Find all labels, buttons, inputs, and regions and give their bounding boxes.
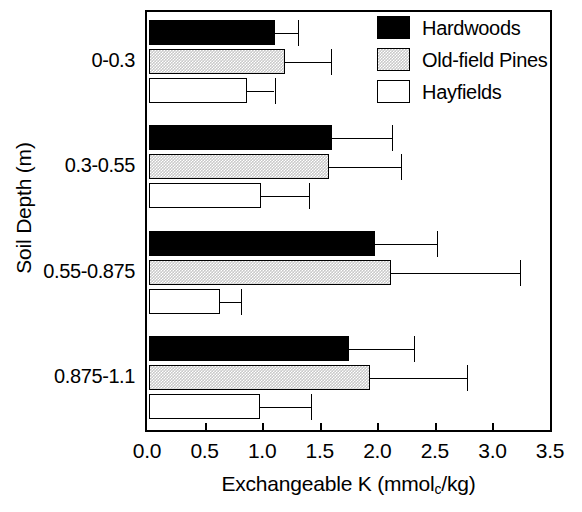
bar-hayfields-0.3-0.55 xyxy=(149,183,261,208)
legend-swatch-hardwoods xyxy=(377,16,410,39)
x-axis-tick xyxy=(377,423,379,432)
legend-label: Hardwoods xyxy=(422,14,520,42)
error-bar-cap xyxy=(401,154,402,180)
error-bar-line xyxy=(391,273,520,274)
bar-hardwoods-0.875-1.1 xyxy=(149,336,349,361)
error-bar-cap xyxy=(331,49,332,75)
error-bar-cap xyxy=(520,260,521,286)
error-bar-line xyxy=(285,62,331,63)
x-axis-tick xyxy=(205,423,207,432)
error-bar-line xyxy=(329,167,402,168)
error-bar-cap xyxy=(467,365,468,391)
y-tick-label-0.875-1.1: 0.875-1.1 xyxy=(0,365,135,387)
y-axis-tick-labels: 0-0.30.3-0.550.55-0.8750.875-1.1 xyxy=(0,0,141,432)
error-bar-cap xyxy=(275,78,276,104)
x-tick-label: 1.0 xyxy=(232,438,292,464)
error-bar-cap xyxy=(392,125,393,151)
legend-label: Old-field Pines xyxy=(422,46,548,74)
x-tick-label: 3.5 xyxy=(520,438,580,464)
legend-item-hayfields: Hayfields xyxy=(377,78,549,107)
bar-hayfields-0.875-1.1 xyxy=(149,394,260,419)
error-bar-line xyxy=(220,302,241,303)
x-tick-label: 2.5 xyxy=(405,438,465,464)
bar-old-field-pines-0.875-1.1 xyxy=(149,365,370,390)
legend-swatch-pines xyxy=(377,48,410,71)
legend-item-pines: Old-field Pines xyxy=(377,46,549,75)
bar-hayfields-0-0.3 xyxy=(149,78,247,103)
error-bar-line xyxy=(275,33,298,34)
x-axis-tick xyxy=(492,423,494,432)
x-tick-label: 0.0 xyxy=(117,438,177,464)
chart-legend: HardwoodsOld-field PinesHayfields xyxy=(377,14,549,110)
x-axis-tick xyxy=(320,423,322,432)
error-bar-line xyxy=(349,349,413,350)
x-tick-label: 0.5 xyxy=(175,438,235,464)
legend-swatch-hayfields xyxy=(377,80,410,103)
x-axis-tick xyxy=(262,423,264,432)
y-tick-label-0.3-0.55: 0.3-0.55 xyxy=(0,154,135,176)
bar-old-field-pines-0.3-0.55 xyxy=(149,154,329,179)
y-tick-label-0-0.3: 0-0.3 xyxy=(0,49,135,71)
x-axis-title-subscript: c xyxy=(435,481,442,497)
bar-old-field-pines-0-0.3 xyxy=(149,49,285,74)
error-bar-line xyxy=(247,91,275,92)
error-bar-cap xyxy=(309,183,310,209)
legend-label: Hayfields xyxy=(422,78,502,106)
x-tick-label: 2.0 xyxy=(347,438,407,464)
bar-old-field-pines-0.55-0.875 xyxy=(149,260,391,285)
bar-hardwoods-0-0.3 xyxy=(149,20,275,45)
error-bar-line xyxy=(332,138,392,139)
error-bar-line xyxy=(261,196,309,197)
x-tick-label: 1.5 xyxy=(290,438,350,464)
error-bar-cap xyxy=(414,336,415,362)
x-tick-label: 3.0 xyxy=(462,438,522,464)
x-axis-tick-labels: 0.00.51.01.52.02.53.03.5 xyxy=(0,438,582,464)
error-bar-cap xyxy=(298,20,299,46)
error-bar-cap xyxy=(437,231,438,257)
error-bar-line xyxy=(260,407,312,408)
x-axis-title: Exchangeable K (mmolc/kg) xyxy=(145,472,552,497)
y-tick-label-0.55-0.875: 0.55-0.875 xyxy=(0,260,135,282)
x-axis-tick xyxy=(435,423,437,432)
legend-item-hardwoods: Hardwoods xyxy=(377,14,549,43)
error-bar-cap xyxy=(311,394,312,420)
chart-figure: Soil Depth (m) 0-0.30.3-0.550.55-0.8750.… xyxy=(0,0,582,512)
bar-hayfields-0.55-0.875 xyxy=(149,289,220,314)
x-axis-tick xyxy=(550,423,552,432)
bar-hardwoods-0.55-0.875 xyxy=(149,231,375,256)
bar-hardwoods-0.3-0.55 xyxy=(149,125,332,150)
error-bar-line xyxy=(375,244,437,245)
error-bar-line xyxy=(370,378,467,379)
error-bar-cap xyxy=(241,289,242,315)
